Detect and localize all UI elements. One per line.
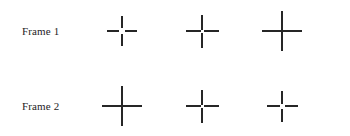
cross-arm-left-icon: [102, 105, 122, 107]
cross-arm-down-icon: [281, 31, 283, 51]
cross-arm-down-icon: [121, 106, 123, 126]
cross-icon: [174, 78, 230, 134]
cross-arm-down-icon: [201, 33, 203, 48]
cross-arm-left-icon: [107, 30, 119, 32]
cross-arm-up-icon: [121, 16, 123, 28]
cross-icon: [254, 3, 310, 59]
cross-arm-right-icon: [282, 30, 302, 32]
stimulus-cell: [174, 3, 230, 59]
cross-arm-down-icon: [281, 109, 283, 122]
cross-arm-left-icon: [186, 30, 201, 32]
stimulus-cell: [174, 78, 230, 134]
stimulus-cell: [94, 3, 150, 59]
cross-arm-right-icon: [285, 105, 298, 107]
cross-arm-right-icon: [204, 105, 219, 107]
cross-arm-up-icon: [201, 15, 203, 30]
cross-arm-down-icon: [201, 108, 203, 123]
stimulus-cell: [254, 78, 310, 134]
stimulus-figure: Frame 1: [0, 0, 350, 136]
cross-icon: [94, 78, 150, 134]
cross-arm-right-icon: [125, 30, 137, 32]
cross-arm-right-icon: [122, 105, 142, 107]
stimulus-cell: [254, 3, 310, 59]
cross-arm-right-icon: [204, 30, 219, 32]
stimulus-row-frame1: Frame 1: [0, 3, 350, 59]
cross-arm-left-icon: [267, 105, 280, 107]
cross-arm-up-icon: [121, 86, 123, 106]
stimulus-cell: [94, 78, 150, 134]
row-label-frame2: Frame 2: [22, 78, 92, 134]
row-label-frame1: Frame 1: [22, 3, 92, 59]
cross-icon: [254, 78, 310, 134]
cross-arm-up-icon: [201, 90, 203, 105]
cross-arm-left-icon: [186, 105, 201, 107]
cross-arm-left-icon: [262, 30, 282, 32]
cross-icon: [174, 3, 230, 59]
stimulus-row-frame2: Frame 2: [0, 78, 350, 134]
cross-arm-up-icon: [281, 11, 283, 31]
cross-icon: [94, 3, 150, 59]
cross-arm-up-icon: [281, 91, 283, 104]
cross-arm-down-icon: [121, 34, 123, 46]
